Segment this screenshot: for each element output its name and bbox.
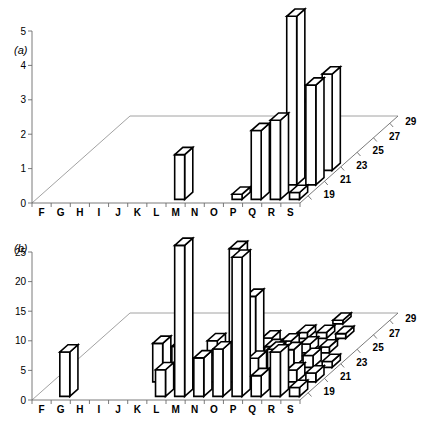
depth-axis-label: 21 bbox=[340, 371, 352, 382]
bar-side-face bbox=[280, 345, 288, 397]
category-axis-label: S bbox=[287, 207, 294, 218]
category-axis-label: Q bbox=[248, 404, 256, 415]
bar-column bbox=[232, 250, 250, 396]
bar-column bbox=[194, 351, 212, 397]
bar-side-face bbox=[332, 67, 340, 171]
bar-column bbox=[175, 238, 193, 396]
value-axis-tick-label: 5 bbox=[20, 26, 26, 37]
two-panel-3d-bar-figure: 012345FGHIJKLMNOPQRS192123252729(a) 0510… bbox=[0, 0, 444, 429]
bar-side-face bbox=[242, 250, 250, 396]
depth-axis-label: 21 bbox=[340, 174, 352, 185]
bar-front-face bbox=[251, 376, 261, 397]
bar-column bbox=[270, 113, 288, 199]
category-axis-label: N bbox=[191, 404, 198, 415]
bar-side-face bbox=[297, 9, 305, 185]
depth-axis-label: 27 bbox=[389, 131, 401, 142]
category-axis-label: Q bbox=[248, 207, 256, 218]
figure-container: 012345FGHIJKLMNOPQRS192123252729(a) 0510… bbox=[0, 0, 444, 429]
category-axis-label: G bbox=[57, 404, 65, 415]
bar-side-face bbox=[185, 147, 193, 199]
category-axis-label: J bbox=[115, 404, 121, 415]
category-axis-label: F bbox=[39, 404, 45, 415]
category-axis-label: R bbox=[268, 404, 276, 415]
bar-column bbox=[175, 147, 193, 199]
category-axis-label: I bbox=[98, 404, 101, 415]
bar-column bbox=[251, 123, 269, 199]
bar-column bbox=[156, 362, 174, 396]
panel-title: (b) bbox=[14, 242, 28, 254]
value-axis-tick-label: 3 bbox=[20, 94, 26, 105]
panel-title: (a) bbox=[14, 44, 28, 56]
bar-front-face bbox=[270, 120, 280, 199]
depth-axis-label: 25 bbox=[373, 145, 385, 156]
bar-front-face bbox=[232, 257, 242, 396]
depth-axis-label: 29 bbox=[405, 313, 417, 324]
value-axis-tick-label: 0 bbox=[20, 395, 26, 406]
bar-front-face bbox=[213, 349, 223, 396]
bar-column bbox=[322, 67, 340, 171]
category-axis-label: N bbox=[191, 207, 198, 218]
category-axis-label: S bbox=[287, 404, 294, 415]
category-axis-label: M bbox=[171, 207, 179, 218]
bar-front-face bbox=[175, 155, 185, 200]
depth-axis-label: 19 bbox=[324, 189, 336, 200]
bar-side-face bbox=[223, 342, 231, 397]
category-axis-label: J bbox=[115, 207, 121, 218]
bar-front-face bbox=[251, 131, 261, 200]
bar-front-face bbox=[194, 358, 204, 396]
value-axis-tick-label: 5 bbox=[20, 365, 26, 376]
category-axis-label: I bbox=[98, 207, 101, 218]
bar-column bbox=[213, 342, 231, 397]
category-axis-label: O bbox=[210, 404, 218, 415]
bar-column bbox=[251, 368, 269, 396]
value-axis-tick-label: 10 bbox=[15, 335, 27, 346]
category-axis-label: R bbox=[268, 207, 276, 218]
category-axis-label: F bbox=[39, 207, 45, 218]
depth-axis-label: 25 bbox=[373, 342, 385, 353]
bar-column bbox=[287, 9, 305, 185]
bar-side-face bbox=[316, 78, 324, 185]
bar-front-face bbox=[156, 370, 166, 397]
value-axis-tick-label: 0 bbox=[20, 198, 26, 209]
bar-side-face bbox=[70, 345, 78, 397]
depth-axis-label: 23 bbox=[356, 160, 368, 171]
category-axis-label: G bbox=[57, 207, 65, 218]
bar-front-face bbox=[175, 245, 185, 396]
category-axis-label: L bbox=[153, 207, 159, 218]
category-axis-label: O bbox=[210, 207, 218, 218]
depth-axis-label: 27 bbox=[389, 328, 401, 339]
depth-axis-label: 23 bbox=[356, 357, 368, 368]
depth-axis-label: 19 bbox=[324, 386, 336, 397]
value-axis-tick-label: 1 bbox=[20, 163, 26, 174]
bar-front-face bbox=[306, 85, 316, 185]
category-axis-label: H bbox=[76, 207, 83, 218]
bar-front-face bbox=[290, 388, 300, 397]
value-axis-tick-label: 20 bbox=[15, 276, 27, 287]
bar-front-face bbox=[60, 352, 70, 396]
depth-axis-label: 29 bbox=[405, 116, 417, 127]
category-axis-label: L bbox=[153, 404, 159, 415]
bar-side-face bbox=[280, 113, 288, 199]
category-axis-label: P bbox=[230, 404, 237, 415]
bar-column bbox=[270, 345, 288, 397]
bar-side-face bbox=[261, 123, 269, 199]
value-axis-tick-label: 2 bbox=[20, 129, 26, 140]
bar-column bbox=[306, 78, 324, 185]
bar-column bbox=[60, 345, 78, 397]
bar-side-face bbox=[185, 238, 193, 396]
category-axis-label: H bbox=[76, 404, 83, 415]
value-axis-tick-label: 15 bbox=[15, 306, 27, 317]
category-axis-label: P bbox=[230, 207, 237, 218]
category-axis-label: K bbox=[134, 404, 142, 415]
category-axis-label: M bbox=[171, 404, 179, 415]
bar-front-face bbox=[270, 352, 280, 396]
bar-front-face bbox=[290, 193, 300, 200]
value-axis-tick-label: 4 bbox=[20, 60, 26, 71]
category-axis-label: K bbox=[134, 207, 142, 218]
